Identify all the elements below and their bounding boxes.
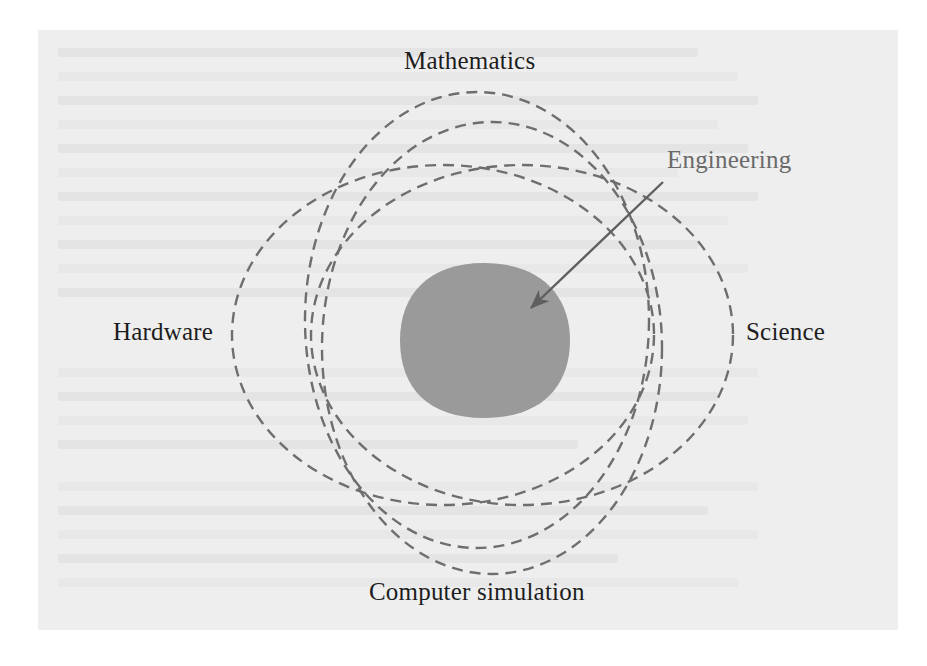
callout-label-engineering: Engineering [667,146,791,174]
set-label-hardware: Hardware [113,318,213,346]
set-label-mathematics: Mathematics [404,47,535,75]
intersection-fill-engineering [400,263,570,418]
set-label-computer-simulation: Computer simulation [369,578,585,606]
figure-page: Mathematics Hardware Science Computer si… [0,0,927,666]
set-label-science: Science [746,318,825,346]
